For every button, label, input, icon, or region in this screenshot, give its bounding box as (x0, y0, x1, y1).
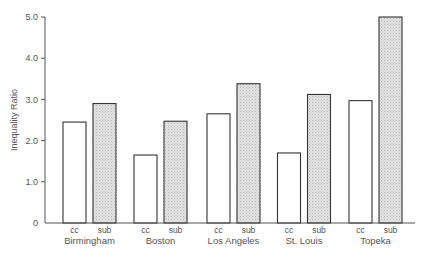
bar-sub (379, 17, 402, 223)
bar-chart: Inequality Ratio 01.02.03.04.05.0 ccsubB… (0, 0, 426, 265)
category-label: Boston (146, 235, 176, 246)
bar-sub (237, 84, 260, 223)
series-label-sub: sub (169, 225, 183, 235)
series-label-sub: sub (98, 225, 112, 235)
category-label: Topeka (360, 235, 391, 246)
y-tick-label: 5.0 (25, 12, 38, 22)
series-label-sub: sub (312, 225, 326, 235)
bar-cc (63, 122, 86, 223)
bar-sub (93, 104, 116, 223)
x-axis: ccsubBirminghamccsubBostonccsubLos Angel… (45, 223, 415, 246)
series-label-cc: cc (285, 225, 294, 235)
bar-cc (349, 101, 372, 223)
bar-group-topeka (349, 17, 402, 223)
y-tick-label: 4.0 (25, 53, 38, 63)
bar-group-los-angeles (207, 84, 260, 223)
series-label-sub: sub (384, 225, 398, 235)
y-tick-label: 1.0 (25, 177, 38, 187)
bar-cc (207, 114, 230, 223)
series-label-cc: cc (356, 225, 365, 235)
category-label: St. Louis (286, 235, 323, 246)
bar-group-birmingham (63, 104, 116, 223)
bar-sub (308, 94, 331, 223)
bar-sub (164, 121, 187, 223)
y-axis-title-group: Inequality Ratio (9, 89, 19, 151)
bar-cc (278, 153, 301, 223)
bar-group-st-louis (278, 94, 331, 223)
series-label-cc: cc (70, 225, 79, 235)
y-tick-label: 2.0 (25, 136, 38, 146)
y-tick-label: 3.0 (25, 95, 38, 105)
bars (63, 17, 402, 223)
series-label-cc: cc (214, 225, 223, 235)
series-label-cc: cc (141, 225, 150, 235)
category-label: Birmingham (64, 235, 115, 246)
category-label: Los Angeles (208, 235, 260, 246)
series-label-sub: sub (242, 225, 256, 235)
y-axis-title: Inequality Ratio (9, 89, 19, 151)
y-tick-label: 0 (33, 218, 38, 228)
bar-cc (134, 155, 157, 223)
y-axis: 01.02.03.04.05.0 (25, 12, 45, 228)
bar-group-boston (134, 121, 187, 223)
